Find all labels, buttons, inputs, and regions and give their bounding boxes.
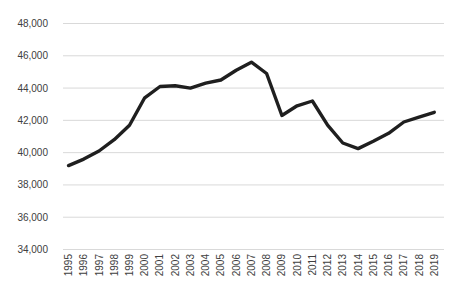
y-axis-label: 44,000 bbox=[17, 83, 48, 94]
y-axis-label: 48,000 bbox=[17, 18, 48, 29]
y-axis-label: 36,000 bbox=[17, 212, 48, 223]
x-axis-label: 2012 bbox=[322, 254, 333, 277]
x-axis-label: 2004 bbox=[200, 254, 211, 277]
x-axis-label: 2014 bbox=[353, 254, 364, 277]
x-axis-label: 2013 bbox=[337, 254, 348, 277]
x-axis-label: 2017 bbox=[398, 254, 409, 277]
x-axis-label: 2011 bbox=[307, 254, 318, 276]
y-axis-label: 34,000 bbox=[17, 244, 48, 255]
chart-canvas: 34,00036,00038,00040,00042,00044,00046,0… bbox=[0, 0, 451, 293]
x-axis-label: 1996 bbox=[78, 254, 89, 277]
x-axis-label: 2008 bbox=[261, 254, 272, 277]
line-chart: 34,00036,00038,00040,00042,00044,00046,0… bbox=[0, 0, 451, 293]
x-axis-label: 2005 bbox=[215, 254, 226, 277]
x-axis-label: 2003 bbox=[185, 254, 196, 277]
x-axis-label: 2000 bbox=[139, 254, 150, 277]
x-axis-label: 2009 bbox=[276, 254, 287, 277]
x-axis-label: 2006 bbox=[231, 254, 242, 277]
x-axis-label: 2001 bbox=[154, 254, 165, 277]
x-axis-label: 2010 bbox=[292, 254, 303, 277]
x-axis-label: 2019 bbox=[429, 254, 440, 277]
y-axis-label: 40,000 bbox=[17, 147, 48, 158]
x-axis-label: 1997 bbox=[94, 254, 105, 277]
y-axis-label: 38,000 bbox=[17, 179, 48, 190]
x-axis-label: 2016 bbox=[383, 254, 394, 277]
x-axis-label: 1998 bbox=[109, 254, 120, 277]
x-axis-label: 1995 bbox=[63, 254, 74, 277]
y-axis-label: 46,000 bbox=[17, 50, 48, 61]
x-axis-label: 2018 bbox=[414, 254, 425, 277]
y-axis-label: 42,000 bbox=[17, 115, 48, 126]
x-axis-label: 2015 bbox=[368, 254, 379, 277]
x-axis-label: 2007 bbox=[246, 254, 257, 277]
x-axis-label: 2002 bbox=[170, 254, 181, 277]
x-axis-label: 1999 bbox=[124, 254, 135, 277]
